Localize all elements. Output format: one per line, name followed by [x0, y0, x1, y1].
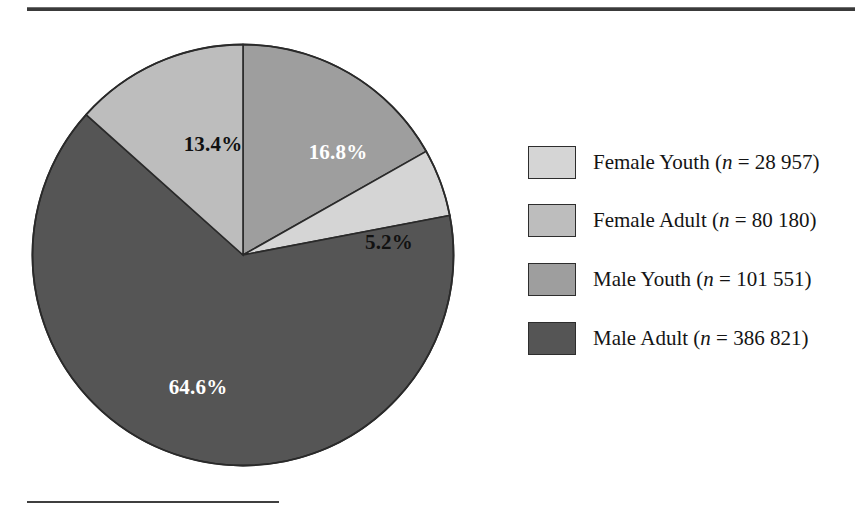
legend-swatch-female-youth: [528, 146, 576, 179]
legend-swatch-male-adult: [528, 322, 576, 355]
legend-label-male-youth: Male Youth (n = 101 551): [593, 259, 811, 299]
equals-sign: =: [730, 208, 752, 232]
paren-open: (: [712, 208, 719, 232]
n-symbol: n: [700, 326, 711, 350]
legend: Female Youth (n = 28 957) Female Adult (…: [525, 140, 855, 372]
legend-count-group: (n = 28 957): [715, 150, 820, 174]
pie-chart: 16.8% 5.2% 64.6% 13.4%: [31, 39, 457, 473]
legend-label-text: Female Adult: [593, 208, 707, 232]
legend-item-male-adult[interactable]: Male Adult (n = 386 821): [525, 318, 855, 374]
legend-count-value: 101 551: [736, 267, 804, 291]
legend-label-female-youth: Female Youth (n = 28 957): [593, 142, 820, 182]
legend-swatch-female-adult: [528, 204, 576, 237]
paren-close: ): [813, 150, 820, 174]
paren-open: (: [715, 150, 722, 174]
pie-slices: [32, 45, 453, 466]
legend-count-value: 28 957: [755, 150, 813, 174]
legend-item-female-youth[interactable]: Female Youth (n = 28 957): [525, 142, 855, 198]
legend-item-female-adult[interactable]: Female Adult (n = 80 180): [525, 200, 855, 256]
equals-sign: =: [732, 150, 754, 174]
n-symbol: n: [703, 267, 714, 291]
legend-swatch-male-youth: [528, 263, 576, 296]
pie-chart-figure: 16.8% 5.2% 64.6% 13.4% Female Youth (n =…: [0, 0, 861, 514]
legend-count-group: (n = 101 551): [696, 267, 811, 291]
legend-label-text: Male Youth: [593, 267, 691, 291]
equals-sign: =: [714, 267, 736, 291]
legend-label-female-adult: Female Adult (n = 80 180): [593, 200, 817, 240]
top-rule: [27, 7, 855, 11]
slice-label-male-youth: 16.8%: [309, 140, 368, 164]
slice-label-female-youth: 5.2%: [365, 230, 413, 254]
legend-count-value: 386 821: [733, 326, 801, 350]
paren-close: ): [804, 267, 811, 291]
slice-label-male-adult: 64.6%: [169, 375, 228, 399]
legend-label-male-adult: Male Adult (n = 386 821): [593, 318, 808, 358]
slice-label-female-adult: 13.4%: [184, 132, 243, 156]
legend-label-text: Male Adult: [593, 326, 688, 350]
paren-close: ): [810, 208, 817, 232]
legend-count-group: (n = 80 180): [712, 208, 817, 232]
footnote-rule: [27, 501, 279, 503]
equals-sign: =: [711, 326, 733, 350]
n-symbol: n: [722, 150, 733, 174]
paren-close: ): [801, 326, 808, 350]
n-symbol: n: [719, 208, 730, 232]
legend-count-group: (n = 386 821): [693, 326, 808, 350]
pie-svg: 16.8% 5.2% 64.6% 13.4%: [31, 39, 457, 473]
legend-item-male-youth[interactable]: Male Youth (n = 101 551): [525, 259, 855, 315]
legend-label-text: Female Youth: [593, 150, 710, 174]
legend-count-value: 80 180: [752, 208, 810, 232]
